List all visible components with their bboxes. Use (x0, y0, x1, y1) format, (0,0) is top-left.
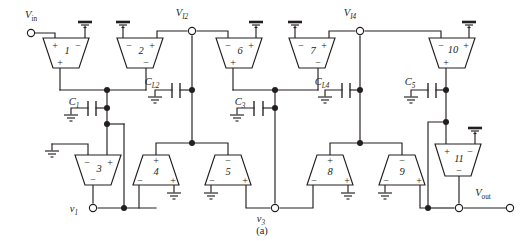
amp9-number: 9 (399, 166, 405, 177)
amp5-output-right-sign: + (242, 175, 248, 186)
wire-amp2-right-vi2 (157, 31, 187, 38)
amp7-input-left-sign: − (298, 40, 304, 51)
junction-dot-vi4-bus (357, 140, 363, 146)
wire-amp9-right-out (420, 185, 428, 208)
amp8-input-sign: + (327, 155, 333, 166)
terminal-vin[interactable] (27, 29, 34, 36)
junction-dot-c5-branch (443, 119, 449, 125)
terminal-vout-inner[interactable] (455, 204, 462, 211)
capacitor-c1 (88, 101, 96, 116)
amp8-output-left-sign: − (311, 175, 317, 186)
junction-dot-c1-top (104, 87, 110, 93)
wire-amp7-right-vi4 (329, 31, 355, 38)
junction-dot-c5-right (443, 87, 449, 93)
wire-amp5-in (192, 143, 228, 155)
wire-vin-to-amp1 (35, 33, 55, 38)
junction-dot-c1-bot (104, 121, 110, 127)
ground-symbol-cl2 (148, 97, 162, 103)
amp1-number: 1 (64, 45, 69, 56)
label-vi2-sub: I2 (181, 13, 188, 21)
amp2-input-right-sign: + (149, 40, 155, 51)
amp9-output-right-sign: + (416, 175, 422, 186)
wire-amp9-in (360, 143, 402, 155)
terminal-v1[interactable] (89, 204, 96, 211)
amp5-number: 5 (225, 166, 230, 177)
junction-dot-out-bus (425, 205, 431, 211)
amp1-input-right-sign: − (75, 40, 81, 51)
label-c5: C5 (405, 76, 416, 90)
amp11-output-sign: − (456, 165, 462, 176)
amp6-input-right-sign: + (248, 40, 254, 51)
capacitor-symbols (88, 83, 436, 116)
amp5-output-left-sign: − (209, 175, 215, 186)
amp11-input-right-sign: − (467, 146, 473, 157)
amp4-output-left-sign: − (137, 175, 143, 186)
amp4-output-right-sign: + (170, 175, 176, 186)
amp10-input-right-sign: + (463, 40, 469, 51)
amp6-number: 6 (237, 45, 243, 56)
amp2-output-sign: − (143, 57, 149, 68)
terminal-v3[interactable] (271, 204, 278, 211)
label-vin-sub: in (31, 15, 37, 23)
label-cl2-sub: L2 (151, 82, 160, 90)
amp1-output-sign: + (57, 57, 63, 68)
wire-amp4-in (156, 143, 192, 155)
circuit-schematic: + − 1 + − + 2 − − + 6 + − + 7 − − + 10 +… (0, 0, 525, 241)
capacitor-labels: C1 CL2 C3 CL4 C5 (69, 76, 416, 110)
amp8-output-right-sign: + (344, 175, 350, 186)
amp7-input-right-sign: + (321, 40, 327, 51)
capacitor-cl2 (172, 83, 180, 98)
label-v1-sub: 1 (75, 209, 79, 217)
ground-symbol-c1 (64, 115, 78, 121)
ground-symbol-amp8-out (341, 193, 355, 199)
capacitor-c3 (254, 101, 263, 116)
ground-symbol-amp5-out (204, 193, 218, 199)
wire-c3-gnd-arm (237, 108, 254, 114)
amp10-input-left-sign: − (438, 40, 444, 51)
junction-dot-v1-bus (121, 205, 127, 211)
label-cl4-sub: L4 (321, 82, 330, 90)
terminal-vi2[interactable] (188, 27, 195, 34)
junction-dot-cl4-right (357, 87, 363, 93)
amp5-input-sign: − (225, 155, 231, 166)
label-cl2: CL2 (145, 76, 160, 90)
wire-vi2-amp6 (197, 31, 228, 38)
junction-dot-c3-top (272, 87, 278, 93)
capacitor-cl4 (342, 83, 350, 98)
wire-cl4-gnd-arm (325, 90, 342, 96)
label-v1: v1 (70, 203, 78, 217)
junction-dot-c3-mid (272, 105, 278, 111)
label-vout: Vout (475, 187, 491, 201)
amp7-output-sign: − (315, 57, 321, 68)
amp3-output-sign: − (90, 174, 96, 185)
figure-caption: (a) (256, 225, 268, 237)
label-vi4-sub: I4 (349, 13, 356, 21)
figure-container: + − 1 + − + 2 − − + 6 + − + 7 − − + 10 +… (0, 0, 525, 241)
amp9-input-sign: − (399, 155, 405, 166)
capacitor-c5 (428, 83, 436, 98)
wire-c5-gnd-arm (411, 90, 428, 96)
wire-amp8-left-out (280, 185, 313, 208)
wire-cl2-gnd-arm (155, 90, 172, 96)
amp2-input-left-sign: − (126, 40, 132, 51)
amp4-input-sign: + (153, 155, 159, 166)
ground-symbol-cl4 (318, 97, 332, 103)
ground-symbol-amp3-left (45, 151, 59, 157)
wire-c1-gnd-arm (71, 108, 88, 114)
junction-dot-c1-mid (104, 105, 110, 111)
amp11-input-left-sign: + (444, 146, 450, 157)
amp9-output-left-sign: − (383, 175, 389, 186)
amp2-number: 2 (138, 45, 144, 56)
amp3-input-right-sign: + (107, 157, 113, 168)
wire-amp3-left-gnd (52, 144, 88, 155)
amp6-input-left-sign: − (225, 40, 231, 51)
junction-dot-vi2-bus (189, 140, 195, 146)
terminal-vi4[interactable] (356, 27, 363, 34)
amp1-input-left-sign: + (52, 40, 58, 51)
terminal-vout[interactable] (506, 204, 513, 211)
wire-amp8-in (330, 143, 360, 155)
label-vi2: VI2 (176, 7, 189, 21)
amp7-number: 7 (310, 45, 316, 56)
amp10-number: 10 (448, 44, 459, 55)
amp6-output-sign: + (230, 57, 236, 68)
